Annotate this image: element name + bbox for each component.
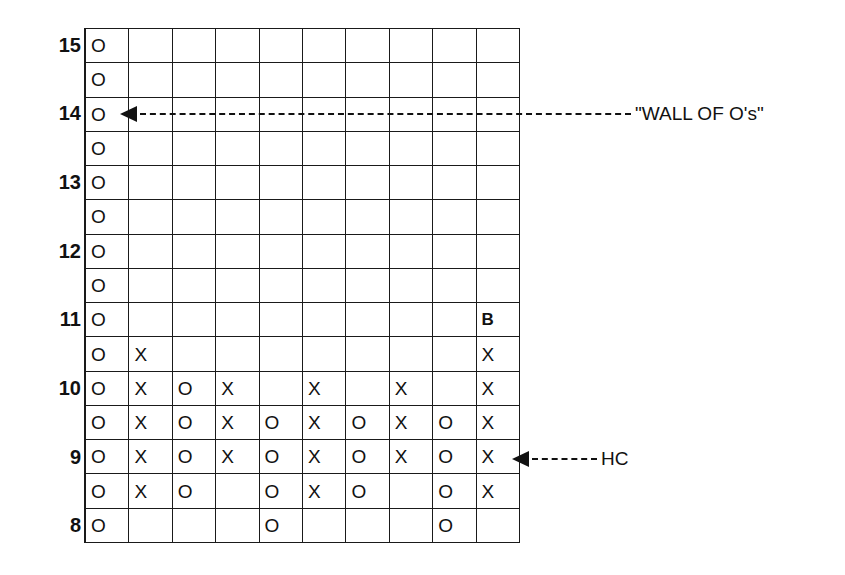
- o-box: O: [433, 474, 476, 508]
- empty-box: [433, 372, 476, 406]
- empty-box: [346, 509, 389, 543]
- o-box: O: [86, 303, 129, 337]
- empty-box: [216, 337, 259, 371]
- empty-box: [216, 474, 259, 508]
- x-box: X: [129, 440, 172, 474]
- o-box: O: [260, 406, 303, 440]
- empty-box: [433, 29, 476, 63]
- empty-box: [390, 63, 433, 97]
- empty-box: [477, 269, 520, 303]
- o-box: O: [86, 200, 129, 234]
- x-box: X: [216, 406, 259, 440]
- o-box: O: [173, 372, 216, 406]
- empty-box: [260, 132, 303, 166]
- empty-box: [346, 235, 389, 269]
- empty-box: [173, 509, 216, 543]
- o-box: O: [86, 63, 129, 97]
- empty-box: [477, 235, 520, 269]
- o-box: O: [86, 132, 129, 166]
- empty-box: [390, 509, 433, 543]
- o-box: O: [86, 474, 129, 508]
- empty-box: [390, 269, 433, 303]
- empty-box: [260, 63, 303, 97]
- empty-box: [260, 372, 303, 406]
- dashed-leader-line: [140, 113, 631, 115]
- y-axis-label: 8: [30, 509, 82, 543]
- empty-box: [390, 132, 433, 166]
- empty-box: [216, 303, 259, 337]
- empty-box: [433, 166, 476, 200]
- dashed-leader-line: [532, 458, 597, 460]
- y-axis-label: [30, 62, 82, 96]
- empty-box: [346, 337, 389, 371]
- empty-box: [260, 166, 303, 200]
- empty-box: [346, 303, 389, 337]
- empty-box: [477, 200, 520, 234]
- empty-box: [173, 132, 216, 166]
- empty-box: [433, 303, 476, 337]
- x-box: X: [129, 474, 172, 508]
- empty-box: [173, 29, 216, 63]
- x-box: X: [390, 406, 433, 440]
- empty-box: [173, 235, 216, 269]
- empty-box: [216, 509, 259, 543]
- empty-box: [260, 29, 303, 63]
- empty-box: [303, 337, 346, 371]
- empty-box: [216, 166, 259, 200]
- empty-box: [477, 166, 520, 200]
- empty-box: [346, 372, 389, 406]
- y-axis-label: [30, 131, 82, 165]
- empty-box: [260, 235, 303, 269]
- empty-box: [346, 29, 389, 63]
- empty-box: [303, 63, 346, 97]
- o-box: O: [433, 509, 476, 543]
- o-box: O: [260, 474, 303, 508]
- empty-box: [216, 63, 259, 97]
- y-axis-label: [30, 268, 82, 302]
- empty-box: [216, 132, 259, 166]
- x-box: X: [303, 372, 346, 406]
- o-box: O: [86, 29, 129, 63]
- empty-box: [433, 337, 476, 371]
- empty-box: [390, 29, 433, 63]
- empty-box: [173, 337, 216, 371]
- empty-box: [216, 269, 259, 303]
- empty-box: [173, 303, 216, 337]
- o-box: O: [346, 406, 389, 440]
- empty-box: [433, 63, 476, 97]
- empty-box: [129, 29, 172, 63]
- o-box: O: [346, 474, 389, 508]
- empty-box: [260, 337, 303, 371]
- y-axis-label: 12: [30, 234, 82, 268]
- o-box: O: [260, 509, 303, 543]
- arrow-left-icon: [512, 451, 529, 467]
- empty-box: [390, 337, 433, 371]
- o-box: O: [260, 440, 303, 474]
- empty-box: [129, 509, 172, 543]
- empty-box: [433, 235, 476, 269]
- empty-box: [346, 63, 389, 97]
- x-box: X: [303, 406, 346, 440]
- annotation-hc: HC: [512, 449, 628, 469]
- y-axis-label: 9: [30, 440, 82, 474]
- point-and-figure-chart: 15141312111098 OOOOOOOOOBOXXOXOXXXXOXOXO…: [0, 0, 845, 575]
- x-box: X: [129, 406, 172, 440]
- empty-box: [173, 269, 216, 303]
- x-box: X: [477, 337, 520, 371]
- o-box: O: [86, 509, 129, 543]
- empty-box: [390, 200, 433, 234]
- empty-box: [303, 29, 346, 63]
- o-box: O: [86, 269, 129, 303]
- empty-box: [303, 235, 346, 269]
- empty-box: [303, 303, 346, 337]
- x-box: X: [390, 372, 433, 406]
- annotation-label: HC: [601, 448, 628, 470]
- empty-box: [260, 303, 303, 337]
- empty-box: [346, 166, 389, 200]
- y-axis-label: 14: [30, 97, 82, 131]
- x-box: X: [216, 372, 259, 406]
- empty-box: [433, 269, 476, 303]
- empty-box: [303, 509, 346, 543]
- empty-box: [216, 200, 259, 234]
- x-box: X: [303, 474, 346, 508]
